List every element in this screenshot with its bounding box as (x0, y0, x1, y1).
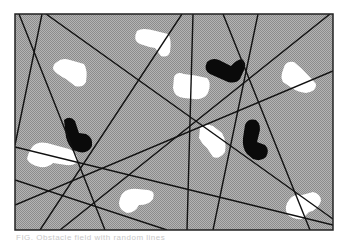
diagram-canvas (0, 0, 344, 245)
figure-caption: FIG. Obstacle field with random lines (16, 233, 165, 242)
